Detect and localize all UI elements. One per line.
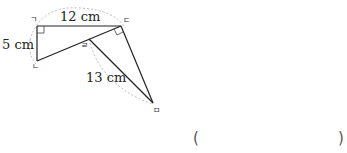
point-label-rieul: ㄹ: [81, 42, 88, 50]
right-angle-mark-giyeok: [37, 26, 44, 33]
right-angle-mark-digeut: [114, 29, 123, 35]
length-label-top: 12 cm: [60, 10, 100, 23]
answer-paren-close: ): [338, 131, 344, 146]
point-label-digeut: ㄷ: [123, 17, 130, 25]
triangle-figure: [0, 0, 347, 153]
length-label-left: 5 cm: [2, 38, 34, 51]
point-label-giyeok: ㄱ: [30, 16, 37, 24]
segment-nieun-digeut: [37, 26, 121, 61]
point-label-mieum: ㅁ: [153, 107, 160, 115]
point-label-nieun: ㄴ: [32, 63, 39, 71]
length-label-diagonal: 13 cm: [86, 71, 126, 84]
answer-paren-open: (: [193, 131, 199, 146]
